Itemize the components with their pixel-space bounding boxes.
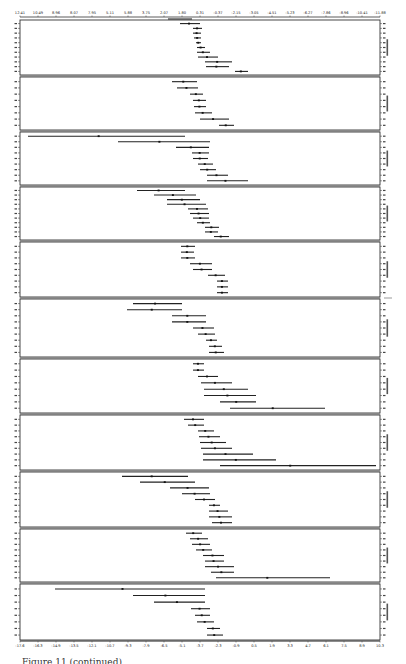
point-estimate	[206, 56, 208, 58]
bottom-tick-label: 4.7	[305, 644, 311, 648]
point-estimate	[213, 504, 215, 506]
bottom-tick-label: -5.1	[178, 644, 185, 648]
point-estimate	[192, 418, 194, 420]
point-estimate	[186, 315, 188, 317]
point-estimate	[186, 257, 188, 259]
point-estimate	[186, 321, 188, 323]
point-estimate	[235, 459, 237, 461]
point-estimate	[202, 549, 204, 551]
top-tick-label: 10.49	[33, 11, 44, 15]
point-estimate	[226, 395, 228, 397]
top-tick-label: -6.27	[303, 11, 312, 15]
point-estimate	[201, 269, 203, 271]
point-estimate	[186, 251, 188, 253]
point-estimate	[154, 303, 156, 305]
point-estimate	[199, 543, 201, 545]
top-tick-label: -10.41	[356, 11, 368, 15]
point-estimate	[215, 174, 217, 176]
point-estimate	[201, 327, 203, 329]
point-estimate	[181, 199, 183, 201]
point-estimate	[220, 571, 222, 573]
point-estimate	[202, 51, 204, 53]
point-estimate	[224, 180, 226, 182]
point-estimate	[212, 118, 214, 120]
point-estimate	[151, 309, 153, 311]
figure-caption: Figure 11 (continued)	[22, 654, 406, 664]
point-estimate	[192, 532, 194, 534]
bottom-tick-label: -13.5	[69, 644, 78, 648]
point-estimate	[199, 158, 201, 160]
top-tick-label: -5.23	[285, 11, 294, 15]
point-estimate	[186, 245, 188, 247]
bottom-tick-label: -3.7	[196, 644, 203, 648]
point-estimate	[216, 61, 218, 63]
point-estimate	[196, 27, 198, 29]
point-estimate	[185, 87, 187, 89]
bottom-tick-label: 3.3	[287, 644, 293, 648]
point-estimate	[188, 23, 190, 25]
point-estimate	[205, 333, 207, 335]
point-estimate	[182, 81, 184, 83]
point-estimate	[164, 481, 166, 483]
bottom-axis: -17.6-16.3-14.9-13.5-12.1-10.7-9.3-7.9-6…	[15, 641, 384, 648]
panel-10	[15, 529, 389, 583]
panel-4	[15, 187, 389, 241]
bottom-tick-label: 8.9	[359, 644, 365, 648]
bottom-tick-label: -12.1	[87, 644, 96, 648]
point-estimate	[202, 112, 204, 114]
point-estimate	[218, 516, 220, 518]
point-estimate	[203, 499, 205, 501]
bottom-tick-label: 10.3	[376, 644, 384, 648]
point-estimate	[196, 208, 198, 210]
point-estimate	[212, 628, 214, 630]
point-estimate	[190, 146, 192, 148]
point-estimate	[199, 217, 201, 219]
panel-8	[15, 415, 389, 471]
point-estimate	[289, 465, 291, 467]
top-tick-label: 3.75	[142, 11, 150, 15]
top-tick-label: 5.88	[124, 11, 133, 15]
point-estimate	[194, 424, 196, 426]
point-estimate	[221, 286, 223, 288]
bottom-tick-label: -2.3	[214, 644, 221, 648]
top-tick-label: 12.41	[15, 11, 25, 15]
top-tick-label: 2.07	[160, 11, 168, 15]
bottom-tick-label: -0.9	[232, 644, 240, 648]
point-estimate	[197, 363, 199, 365]
point-estimate	[204, 163, 206, 165]
top-tick-label: -2.15	[231, 11, 240, 15]
top-tick-label: 1.80	[178, 11, 187, 15]
point-estimate	[210, 226, 212, 228]
point-estimate	[215, 352, 217, 354]
point-estimate	[98, 135, 100, 137]
panel-1	[15, 20, 389, 76]
point-estimate	[122, 588, 124, 590]
point-estimate	[187, 487, 189, 489]
bottom-tick-label: 6.1	[323, 644, 329, 648]
point-estimate	[197, 369, 199, 371]
point-estimate	[196, 37, 198, 39]
point-estimate	[199, 152, 201, 154]
bottom-tick-label: -16.3	[33, 644, 42, 648]
top-tick-label: -11.88	[374, 11, 386, 15]
bottom-tick-label: -17.6	[15, 644, 25, 648]
point-estimate	[214, 382, 216, 384]
panel-2	[15, 77, 389, 131]
panel-7	[15, 359, 389, 414]
top-tick-label: -7.86	[321, 11, 331, 15]
bottom-tick-label: -10.7	[105, 644, 114, 648]
point-estimate	[223, 388, 225, 390]
bottom-tick-label: -9.3	[124, 644, 131, 648]
top-tick-label: 8.96	[52, 11, 61, 15]
point-estimate	[213, 560, 215, 562]
point-estimate	[217, 510, 219, 512]
point-estimate	[164, 595, 166, 597]
point-estimate	[204, 430, 206, 432]
top-tick-label: -0.37	[213, 11, 222, 15]
point-estimate	[184, 203, 186, 205]
bottom-tick-label: 7.5	[341, 644, 347, 648]
bottom-tick-label: -6.5	[160, 644, 167, 648]
point-estimate	[194, 493, 196, 495]
panel-11	[15, 584, 389, 641]
